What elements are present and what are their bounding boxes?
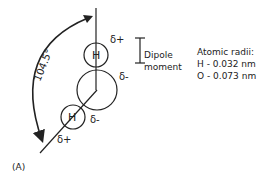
bottom-hydrogen-label: H <box>68 111 76 124</box>
atomic-radii-title: Atomic radii: <box>197 47 254 57</box>
bond-angle-label: 104.5° <box>32 47 55 82</box>
atomic-radius-o: O - 0.073 nm <box>197 71 256 81</box>
top-hydrogen-label: H <box>92 49 100 62</box>
dipole-label-line2: moment <box>144 62 182 72</box>
oxygen-charge: δ- <box>119 71 129 82</box>
panel-label: (A) <box>12 162 25 172</box>
water-molecule-diagram: H H δ+ δ- δ- δ+ 104.5° Dipole moment Ato… <box>0 0 265 181</box>
atomic-radius-h: H - 0.032 nm <box>197 59 256 69</box>
oxygen-lower-charge: δ- <box>90 114 100 125</box>
top-hydrogen-charge: δ+ <box>110 34 125 45</box>
bottom-hydrogen-charge: δ+ <box>57 134 72 145</box>
dipole-label-line1: Dipole <box>144 50 173 60</box>
